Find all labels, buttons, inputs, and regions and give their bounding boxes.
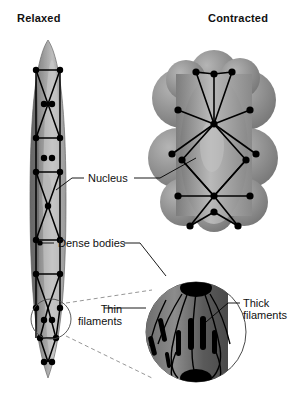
- inset-contents: [146, 279, 230, 387]
- label-thick-filaments: Thick filaments: [243, 297, 287, 321]
- diagram-svg: [0, 0, 298, 400]
- leader-endpoints: [37, 240, 42, 245]
- contracted-cell: [148, 50, 278, 232]
- label-thin-filaments-line2: filaments: [78, 315, 122, 327]
- filament-inset: [146, 279, 246, 387]
- label-thin-filaments-line1: Thin: [78, 303, 122, 315]
- title-relaxed: Relaxed: [17, 12, 61, 24]
- label-thick-filaments-line2: filaments: [243, 309, 287, 321]
- label-thin-filaments: Thin filaments: [78, 303, 122, 327]
- label-dense-bodies: Dense bodies: [58, 237, 125, 249]
- relaxed-cell: [29, 40, 71, 378]
- label-thick-filaments-line1: Thick: [243, 297, 287, 309]
- leader-dense-right: [124, 243, 166, 276]
- label-nucleus: Nucleus: [88, 172, 128, 184]
- title-contracted: Contracted: [208, 12, 268, 24]
- figure-canvas: Relaxed Contracted Nucleus Dense bodies …: [0, 0, 298, 400]
